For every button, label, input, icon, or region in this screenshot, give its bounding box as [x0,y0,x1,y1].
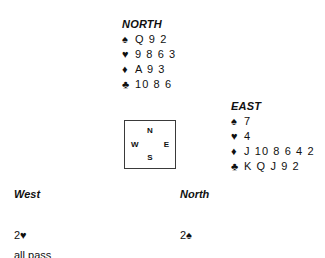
east-heart-row: ♥ 4 [231,131,315,146]
compass-south-label: S [125,154,175,162]
east-heart-cards: 4 [244,131,251,142]
auction-header-east: East [248,188,325,209]
compass-north-label: N [125,127,175,135]
east-suit-list: ♠ 7 ♥ 4 ♦ J 10 8 6 4 2 ♣ K Q J 9 2 [231,116,315,176]
auction-table: West North East South 1♠ 2♥ 2♠ pass 4♠ a… [0,188,325,258]
north-club-cards: 10 8 6 [135,79,172,90]
compass-east-label: E [164,141,169,149]
east-diamond-row: ♦ J 10 8 6 4 2 [231,146,315,161]
compass-west-label: W [131,141,139,149]
auction-header-west: West [0,188,90,209]
north-club-row: ♣ 10 8 6 [122,79,176,94]
east-diamond-cards: J 10 8 6 4 2 [244,146,315,157]
east-spade-row: ♠ 7 [231,116,315,131]
spade-icon: ♠ [231,116,244,127]
auction-header-north: North [90,188,248,209]
auction-row: all pass [0,249,325,258]
bid-north-3 [90,249,248,258]
diamond-icon: ♦ [122,64,135,75]
north-heart-row: ♥ 9 8 6 3 [122,49,176,64]
north-hand-block: NORTH ♠ Q 9 2 ♥ 9 8 6 3 ♦ A 9 3 ♣ 10 8 6 [122,18,176,94]
north-spade-cards: Q 9 2 [135,34,167,45]
spade-icon: ♠ [122,34,135,45]
east-spade-cards: 7 [244,116,251,127]
heart-icon: ♥ [122,49,135,60]
east-club-cards: K Q J 9 2 [244,161,300,172]
heart-icon: ♥ [231,131,244,142]
bid-west-3: all pass [0,249,90,258]
north-suit-list: ♠ Q 9 2 ♥ 9 8 6 3 ♦ A 9 3 ♣ 10 8 6 [122,34,176,94]
auction-row: 1♠ [0,209,325,229]
bid-west-2: 2♥ [0,229,90,249]
north-heart-cards: 9 8 6 3 [135,49,176,60]
bid-east-2: pass [248,229,325,249]
bid-north-2: 2♠ [90,229,248,249]
club-icon: ♣ [122,79,135,90]
north-diamond-row: ♦ A 9 3 [122,64,176,79]
auction-header-row: West North East South [0,188,325,209]
bid-east-1 [248,209,325,229]
north-diamond-cards: A 9 3 [135,64,166,75]
auction-row: 2♥ 2♠ pass 4♠ [0,229,325,249]
east-hand-block: EAST ♠ 7 ♥ 4 ♦ J 10 8 6 4 2 ♣ K Q J 9 2 [231,100,315,176]
bid-west-1 [0,209,90,229]
east-hand-label: EAST [231,100,315,112]
bid-north-1 [90,209,248,229]
bid-east-3 [248,249,325,258]
north-hand-label: NORTH [122,18,176,30]
east-club-row: ♣ K Q J 9 2 [231,161,315,176]
diamond-icon: ♦ [231,146,244,157]
club-icon: ♣ [231,161,244,172]
compass-box: N W E S [124,120,176,169]
north-spade-row: ♠ Q 9 2 [122,34,176,49]
